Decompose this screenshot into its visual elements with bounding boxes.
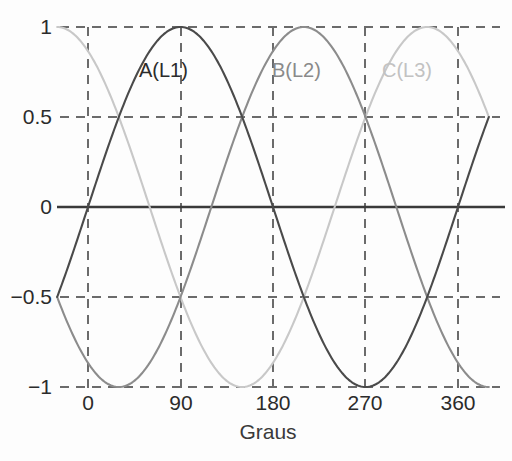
chart-figure: 1 0.5 0 −0.5 −1 0 90 180 270 360 A(L1) B… bbox=[0, 0, 512, 461]
x-tick-label-180: 180 bbox=[243, 392, 303, 413]
y-tick-label-minus-0_5: −0.5 bbox=[0, 286, 52, 307]
y-tick-label-1: 1 bbox=[0, 16, 52, 37]
series-label-c: C(L3) bbox=[382, 60, 432, 80]
y-tick-label-0_5: 0.5 bbox=[0, 106, 52, 127]
series-label-a: A(L1) bbox=[139, 60, 188, 80]
x-axis-title: Graus bbox=[208, 420, 328, 444]
y-tick-label-0: 0 bbox=[0, 196, 52, 217]
x-tick-label-270: 270 bbox=[335, 392, 395, 413]
x-tick-label-90: 90 bbox=[151, 392, 211, 413]
series-label-b: B(L2) bbox=[272, 60, 321, 80]
x-tick-label-360: 360 bbox=[428, 392, 488, 413]
x-tick-label-0: 0 bbox=[58, 392, 118, 413]
y-tick-label-minus-1: −1 bbox=[0, 376, 52, 397]
